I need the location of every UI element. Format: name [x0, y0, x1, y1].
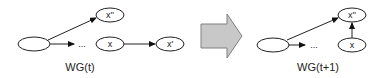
x-prime-node: x': [156, 37, 184, 51]
node-label: x: [108, 39, 113, 49]
x-double-prime-node: x'': [338, 8, 366, 22]
source-node: [257, 38, 289, 52]
edge-source-to-x-double-prime: [287, 18, 338, 40]
x-double-prime-node: x'': [96, 8, 124, 22]
x-node: x: [96, 37, 124, 51]
left-graph: x'' ... x x' WG(t): [18, 8, 184, 73]
ellipsis-node: ...: [78, 39, 86, 49]
node-label: x: [350, 40, 355, 50]
x-node: x: [338, 38, 366, 52]
right-graph-label: WG(t+1): [297, 61, 339, 73]
ellipsis-node: ...: [310, 40, 318, 50]
transition-arrow-icon: [201, 14, 242, 58]
edge-source-to-x-double-prime: [48, 18, 96, 40]
node-label: x': [167, 39, 174, 49]
left-graph-label: WG(t): [65, 61, 94, 73]
node-label: x'': [106, 10, 114, 20]
right-graph: x'' ... x WG(t+1): [257, 8, 366, 73]
node-label: x'': [348, 10, 356, 20]
workflow-graph-diagram: x'' ... x x' WG(t) x'' ... x WG(t: [0, 0, 372, 78]
source-node: [18, 37, 50, 51]
